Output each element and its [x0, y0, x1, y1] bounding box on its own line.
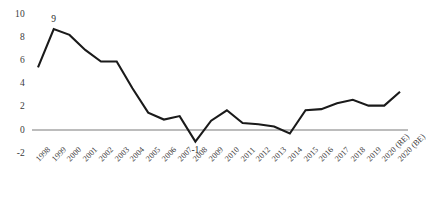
data-series-line — [38, 29, 400, 142]
y-axis-tick-2: 2 — [3, 101, 25, 111]
y-axis-tick-4: 4 — [3, 78, 25, 88]
y-axis-tick-8: 8 — [3, 32, 25, 42]
data-label-2008: -1 — [183, 145, 207, 155]
y-axis-tick-0: 0 — [3, 125, 25, 135]
data-label-1999: 9 — [42, 14, 66, 24]
y-axis-tick-6: 6 — [3, 55, 25, 65]
y-axis-tick-neg2: -2 — [3, 148, 25, 158]
y-axis-tick-10: 10 — [3, 9, 25, 19]
